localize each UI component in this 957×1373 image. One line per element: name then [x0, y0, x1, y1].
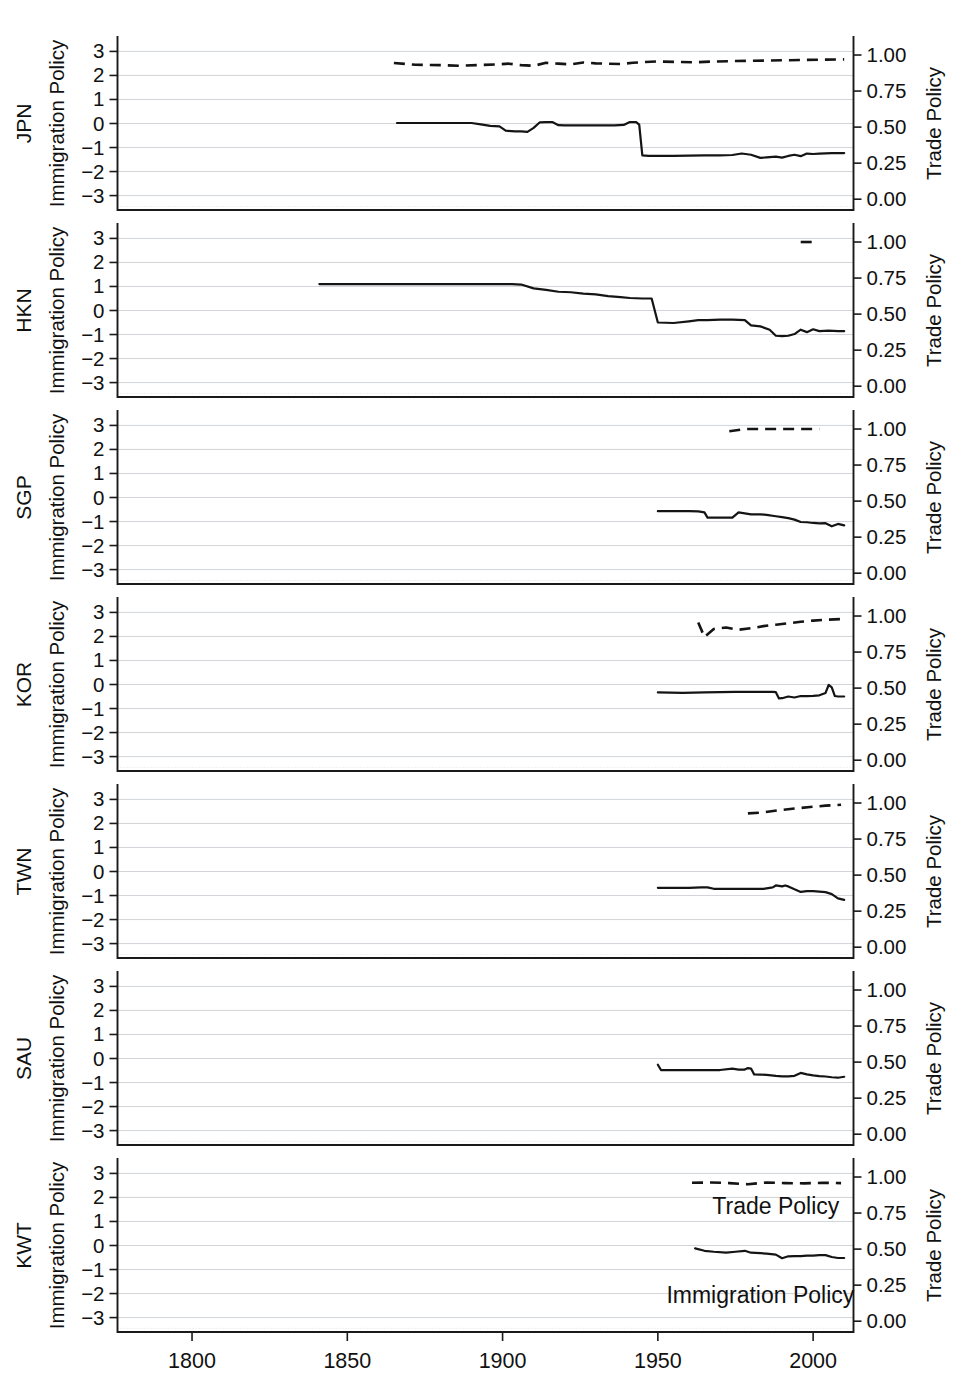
left-tick-label: 3 [93, 226, 104, 249]
right-tick-label: 0.75 [867, 266, 907, 289]
right-axis-title: Trade Policy [922, 1001, 945, 1115]
right-tick-label: 0.50 [867, 1237, 907, 1260]
right-tick-label: 1.00 [867, 417, 907, 440]
immigration-policy-line [658, 1065, 844, 1078]
left-axis-title: Immigration Policy [45, 39, 68, 207]
multi-panel-line-chart: 3210−1−2−31.000.750.500.250.00Immigratio… [0, 0, 957, 1373]
left-axis-title: Immigration Policy [45, 226, 68, 394]
trade-policy-line [748, 805, 841, 814]
left-tick-label: 2 [93, 811, 104, 834]
left-tick-label: −2 [81, 1095, 104, 1118]
left-tick-label: −1 [81, 697, 104, 720]
immigration-policy-line [695, 1248, 844, 1258]
right-tick-label: 1.00 [867, 978, 907, 1001]
right-tick-label: 0.50 [867, 1050, 907, 1073]
right-axis-title: Trade Policy [922, 253, 945, 367]
panel-label-kor: KOR [12, 662, 35, 708]
left-tick-label: −1 [81, 510, 104, 533]
left-tick-label: 1 [93, 1022, 104, 1045]
left-tick-label: −2 [81, 1282, 104, 1305]
left-axis-title: Immigration Policy [45, 787, 68, 955]
right-axis-title: Trade Policy [922, 814, 945, 928]
right-tick-label: 0.75 [867, 640, 907, 663]
panel-label-kwt: KWT [12, 1222, 35, 1269]
left-tick-label: −3 [81, 558, 104, 581]
panel-label-jpn: JPN [12, 104, 35, 144]
x-tick-label: 2000 [789, 1349, 837, 1373]
left-tick-label: −2 [81, 721, 104, 744]
right-tick-label: 0.00 [867, 374, 907, 397]
left-tick-label: 1 [93, 274, 104, 297]
x-tick-label: 1850 [323, 1349, 371, 1373]
right-tick-label: 0.75 [867, 1201, 907, 1224]
right-tick-label: 0.00 [867, 935, 907, 958]
right-tick-label: 0.00 [867, 1309, 907, 1332]
trade-policy-line [698, 619, 844, 637]
panel-label-twn: TWN [12, 848, 35, 896]
x-tick-label: 1950 [634, 1349, 682, 1373]
left-tick-label: 3 [93, 787, 104, 810]
left-tick-label: 0 [93, 1047, 104, 1070]
left-tick-label: 1 [93, 1209, 104, 1232]
panel-label-sgp: SGP [12, 475, 35, 519]
left-tick-label: 2 [93, 624, 104, 647]
right-axis-title: Trade Policy [922, 627, 945, 741]
left-tick-label: 3 [93, 39, 104, 62]
left-axis-title: Immigration Policy [45, 1161, 68, 1329]
right-tick-label: 0.50 [867, 115, 907, 138]
left-tick-label: −1 [81, 136, 104, 159]
left-tick-label: 2 [93, 1185, 104, 1208]
trade-policy-line [729, 429, 819, 431]
right-tick-label: 1.00 [867, 1165, 907, 1188]
x-tick-label: 1900 [479, 1349, 527, 1373]
panel-twn: 3210−1−2−31.000.750.500.250.00Immigratio… [12, 785, 945, 958]
left-tick-label: −3 [81, 371, 104, 394]
immigration-policy-annotation: Immigration Policy [666, 1282, 854, 1308]
left-tick-label: −3 [81, 184, 104, 207]
left-tick-label: −1 [81, 323, 104, 346]
left-tick-label: −2 [81, 908, 104, 931]
left-tick-label: 3 [93, 600, 104, 623]
left-tick-label: 0 [93, 1234, 104, 1257]
left-tick-label: −3 [81, 745, 104, 768]
left-tick-label: 2 [93, 998, 104, 1021]
trade-policy-line [692, 1183, 841, 1185]
right-tick-label: 0.00 [867, 1122, 907, 1145]
right-axis-title: Trade Policy [922, 1188, 945, 1302]
right-tick-label: 0.25 [867, 899, 907, 922]
left-tick-label: −1 [81, 884, 104, 907]
panel-kwt: 3210−1−2−31.000.750.500.250.00Immigratio… [12, 1159, 945, 1373]
right-axis-title: Trade Policy [922, 440, 945, 554]
left-tick-label: 0 [93, 299, 104, 322]
immigration-policy-line [658, 885, 844, 899]
right-tick-label: 1.00 [867, 43, 907, 66]
left-tick-label: −2 [81, 534, 104, 557]
immigration-policy-line [658, 511, 844, 526]
left-axis-title: Immigration Policy [45, 600, 68, 768]
panel-label-hkn: HKN [12, 288, 35, 332]
left-axis-title: Immigration Policy [45, 974, 68, 1142]
left-tick-label: −1 [81, 1071, 104, 1094]
left-tick-label: 0 [93, 486, 104, 509]
trade-policy-annotation: Trade Policy [712, 1193, 839, 1219]
right-tick-label: 0.75 [867, 453, 907, 476]
right-tick-label: 0.25 [867, 525, 907, 548]
left-tick-label: 1 [93, 87, 104, 110]
right-tick-label: 1.00 [867, 791, 907, 814]
left-tick-label: 0 [93, 860, 104, 883]
panel-jpn: 3210−1−2−31.000.750.500.250.00Immigratio… [12, 37, 945, 210]
panel-sau: 3210−1−2−31.000.750.500.250.00Immigratio… [12, 972, 945, 1145]
trade-policy-line [394, 59, 844, 65]
left-tick-label: 1 [93, 648, 104, 671]
right-tick-label: 0.25 [867, 338, 907, 361]
left-tick-label: 2 [93, 63, 104, 86]
left-tick-label: 0 [93, 112, 104, 135]
right-axis-title: Trade Policy [922, 66, 945, 180]
right-tick-label: 0.75 [867, 827, 907, 850]
left-tick-label: −3 [81, 1119, 104, 1142]
left-axis-title: Immigration Policy [45, 413, 68, 581]
right-tick-label: 0.50 [867, 489, 907, 512]
right-tick-label: 0.50 [867, 676, 907, 699]
left-tick-label: −3 [81, 1306, 104, 1329]
left-tick-label: 1 [93, 835, 104, 858]
